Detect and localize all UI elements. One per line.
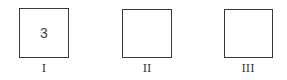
box-1-value: 3 bbox=[40, 25, 48, 41]
box-2 bbox=[122, 9, 172, 58]
box-3-label: III bbox=[233, 62, 263, 75]
box-3 bbox=[224, 9, 273, 58]
box-1: 3 bbox=[19, 8, 69, 58]
box-2-label: II bbox=[132, 62, 162, 75]
box-1-label: I bbox=[29, 62, 59, 75]
